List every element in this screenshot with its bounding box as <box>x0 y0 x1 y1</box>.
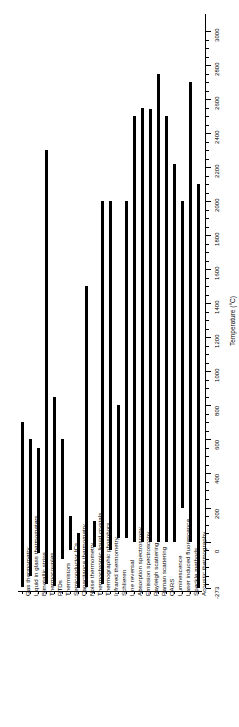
temperature-major-tick <box>206 31 211 32</box>
bar-22 <box>189 82 192 541</box>
temperature-tick-label: 1600 <box>214 267 220 281</box>
temperature-minor-tick <box>206 363 209 364</box>
category-label-14: Line reversal <box>128 560 135 596</box>
temperature-major-tick <box>206 65 211 66</box>
temperature-minor-tick <box>206 431 209 432</box>
temperature-major-tick <box>206 405 211 406</box>
temperature-minor-tick <box>206 210 209 211</box>
category-label-10: Thermochromic liquid crystals <box>96 513 103 596</box>
temperature-tick-label: -273 <box>214 587 220 599</box>
temperature-minor-tick <box>206 499 209 500</box>
temperature-minor-tick <box>206 422 209 423</box>
temperature-minor-tick <box>206 490 209 491</box>
temperature-major-tick <box>206 269 211 270</box>
category-label-11: Thermographic phosphors <box>104 523 111 596</box>
category-label-6: Thermistors <box>64 563 71 596</box>
category-label-18: Raman scattering <box>160 547 167 596</box>
temperature-minor-tick <box>206 40 209 41</box>
temperature-tick-label: 2600 <box>214 96 220 110</box>
temperature-minor-tick <box>206 465 209 466</box>
temperature-minor-tick <box>206 82 209 83</box>
temperature-major-tick <box>206 133 211 134</box>
bar-14 <box>125 201 128 538</box>
temperature-major-tick <box>206 167 211 168</box>
temperature-tick-label: 2000 <box>214 198 220 212</box>
temperature-minor-tick <box>206 414 209 415</box>
plot-area <box>0 0 239 727</box>
temperature-minor-tick <box>206 244 209 245</box>
category-label-12: Infrared thermometry <box>112 537 119 596</box>
temperature-minor-tick <box>206 329 209 330</box>
bar-20 <box>173 164 176 542</box>
temperature-major-tick <box>206 337 211 338</box>
category-label-13: Schlieren <box>120 570 127 596</box>
temperature-tick-label: 1400 <box>214 301 220 315</box>
category-tick <box>22 592 23 594</box>
category-label-4: Thermocouples <box>48 553 55 596</box>
bar-4 <box>45 150 48 584</box>
category-label-3: Bimetallic strips <box>40 552 47 596</box>
category-label-15: Absorption spectroscopy <box>136 527 143 596</box>
temperature-minor-tick <box>206 388 209 389</box>
temperature-minor-tick <box>206 312 209 313</box>
temperature-minor-tick <box>206 57 209 58</box>
bar-18 <box>157 74 160 542</box>
temperature-axis-title: Temperature (°C) <box>229 296 236 346</box>
temperature-minor-tick <box>206 227 209 228</box>
temperature-minor-tick <box>206 48 209 49</box>
temperature-major-tick <box>206 508 211 509</box>
temperature-minor-tick <box>206 150 209 151</box>
temperature-tick-label: 2400 <box>214 130 220 144</box>
temperature-minor-tick <box>206 286 209 287</box>
temperature-minor-tick <box>206 380 209 381</box>
temperature-minor-tick <box>206 193 209 194</box>
temperature-major-tick <box>206 371 211 372</box>
temperature-tick-label: 1800 <box>214 232 220 246</box>
category-label-16: Emission spectroscopy <box>144 532 151 596</box>
temperature-minor-tick <box>206 184 209 185</box>
temperature-tick-label: 2200 <box>214 164 220 178</box>
temperature-tick-label: 2800 <box>214 62 220 76</box>
temperature-major-tick <box>206 439 211 440</box>
temperature-tick-label: 3000 <box>214 28 220 42</box>
temperature-minor-tick <box>206 397 209 398</box>
temperature-minor-tick <box>206 252 209 253</box>
temperature-minor-tick <box>206 516 209 517</box>
temperature-major-tick <box>206 99 211 100</box>
bar-19 <box>165 116 168 541</box>
temperature-minor-tick <box>206 320 209 321</box>
temperature-minor-tick <box>206 159 209 160</box>
temperature-minor-tick <box>206 91 209 92</box>
category-label-20: Luminescence <box>176 556 183 597</box>
temperature-minor-tick <box>206 108 209 109</box>
category-label-7: Semiconductor ICs <box>72 543 79 596</box>
temperature-minor-tick <box>206 176 209 177</box>
category-label-19: CARS <box>168 579 175 596</box>
temperature-major-tick <box>206 235 211 236</box>
bar-13 <box>117 405 120 538</box>
category-label-17: Rayleigh scattering <box>152 542 159 596</box>
temperature-minor-tick <box>206 261 209 262</box>
bar-12 <box>109 201 112 550</box>
bar-17 <box>149 109 152 541</box>
category-label-8: Capacitance thermometry <box>80 524 87 596</box>
category-label-9: Noise thermometry <box>88 543 95 596</box>
temperature-minor-tick <box>206 74 209 75</box>
category-label-2: Liquid in glass thermometers <box>32 516 39 597</box>
bar-15 <box>133 116 136 541</box>
temperature-minor-tick <box>206 278 209 279</box>
temperature-tick-label: 200 <box>214 508 220 518</box>
temperature-major-tick <box>206 201 211 202</box>
temperature-tick-label: 1000 <box>214 369 220 383</box>
temperature-minor-tick <box>206 448 209 449</box>
temperature-minor-tick <box>206 354 209 355</box>
bar-23 <box>197 184 200 588</box>
temperature-minor-tick <box>206 116 209 117</box>
temperature-minor-tick <box>206 456 209 457</box>
temperature-minor-tick <box>206 346 209 347</box>
temperature-tick-label: 400 <box>214 474 220 484</box>
category-label-23: Acoustic thermography <box>200 532 207 596</box>
category-label-1: Gas thermometry <box>24 547 31 596</box>
category-label-5: RTDs <box>56 580 63 596</box>
temperature-range-bar-chart: -273020040060080010001200140016001800200… <box>0 0 239 727</box>
